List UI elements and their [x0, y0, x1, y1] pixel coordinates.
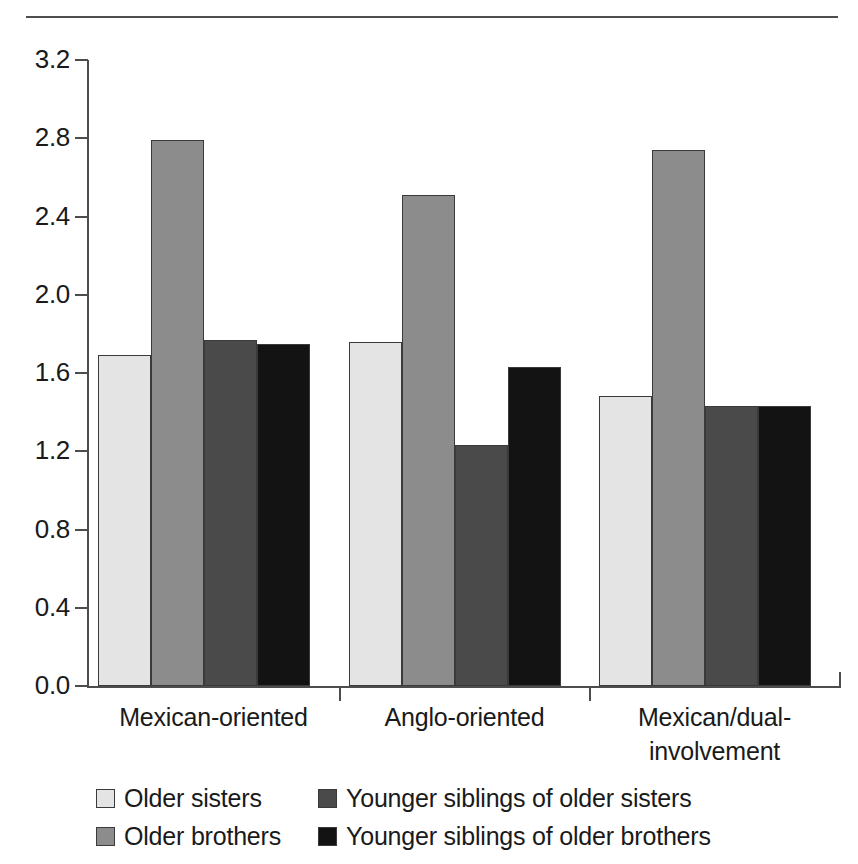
y-axis-tick-label: 0.4: [0, 594, 70, 620]
y-axis-tick-mark: [75, 59, 88, 61]
y-axis-tick-mark: [75, 685, 88, 687]
y-axis-tick-label: 2.8: [0, 124, 70, 150]
bar: [257, 344, 310, 686]
bar: [508, 367, 561, 686]
bar: [349, 342, 402, 686]
bar: [758, 406, 811, 686]
y-axis-tick-mark: [75, 137, 88, 139]
x-axis-category-label-line: Mexican/dual-: [589, 700, 840, 734]
y-axis-tick-mark: [75, 294, 88, 296]
y-axis-tick-label-text: 2.8: [4, 124, 70, 150]
legend-label: Younger siblings of older sisters: [346, 786, 691, 811]
x-axis-line: [87, 686, 841, 688]
legend-swatch-icon: [318, 827, 337, 846]
legend-entry: Older brothers: [96, 817, 281, 855]
x-axis-category-label-line: Mexican-oriented: [88, 700, 339, 734]
y-axis-tick-mark: [75, 216, 88, 218]
bar: [455, 445, 508, 686]
x-axis-category-label-line: Anglo-oriented: [339, 700, 590, 734]
legend-swatch-icon: [318, 789, 337, 808]
legend-entry: Older sisters: [96, 779, 262, 817]
chart-legend: Older sistersYounger siblings of older s…: [96, 779, 836, 855]
y-axis-tick-mark: [75, 450, 88, 452]
y-axis-tick-mark: [75, 529, 88, 531]
bar: [151, 140, 204, 686]
y-axis-tick-label: 1.6: [0, 359, 70, 385]
bar-chart-figure: 0.00.40.81.21.62.02.42.83.2 Mexican-orie…: [0, 0, 858, 864]
x-axis-category-label-line: involvement: [589, 734, 840, 768]
y-axis-tick-label: 2.4: [0, 203, 70, 229]
y-axis-tick-label: 2.0: [0, 281, 70, 307]
bar: [705, 406, 758, 686]
y-axis-tick-label-text: 3.2: [4, 46, 70, 72]
x-axis-category-label: Anglo-oriented: [339, 700, 590, 734]
y-axis-tick-label: 0.8: [0, 516, 70, 542]
x-axis-category-label: Mexican/dual-involvement: [589, 700, 840, 768]
bar: [98, 355, 151, 686]
legend-entry: Younger siblings of older sisters: [318, 779, 691, 817]
legend-label: Older brothers: [124, 824, 281, 849]
legend-row: Older sistersYounger siblings of older s…: [96, 779, 836, 817]
legend-label: Older sisters: [124, 786, 262, 811]
y-axis-tick-label: 3.2: [0, 46, 70, 72]
legend-swatch-icon: [96, 827, 115, 846]
y-axis-tick-label-text: 0.8: [4, 516, 70, 542]
bar: [599, 396, 652, 686]
legend-label: Younger siblings of older brothers: [346, 824, 711, 849]
plot-area: [88, 60, 840, 686]
legend-entry: Younger siblings of older brothers: [318, 817, 711, 855]
bar: [204, 340, 257, 686]
legend-row: Older brothersYounger siblings of older …: [96, 817, 836, 855]
y-axis-tick-label-text: 2.0: [4, 281, 70, 307]
legend-swatch-icon: [96, 789, 115, 808]
y-axis-tick-label-text: 1.6: [4, 359, 70, 385]
y-axis-tick-label: 0.0: [0, 672, 70, 698]
y-axis-tick-mark: [75, 607, 88, 609]
y-axis-tick-label-text: 1.2: [4, 437, 70, 463]
x-axis-category-label: Mexican-oriented: [88, 700, 339, 734]
bar: [402, 195, 455, 686]
y-axis-tick-label-text: 0.0: [4, 672, 70, 698]
y-axis-tick-label-text: 2.4: [4, 203, 70, 229]
bar: [652, 150, 705, 686]
y-axis-tick-label-text: 0.4: [4, 594, 70, 620]
y-axis-tick-label: 1.2: [0, 437, 70, 463]
y-axis-tick-mark: [75, 372, 88, 374]
